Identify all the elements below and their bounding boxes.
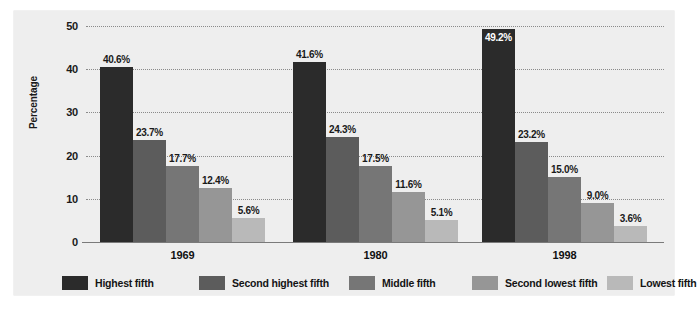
bar-value-label: 9.0% <box>587 190 609 201</box>
bar-value-label: 17.7% <box>169 153 196 164</box>
bar: 40.6% <box>100 67 133 242</box>
bar: 5.1% <box>425 220 458 242</box>
legend-item[interactable]: Second highest fifth <box>199 275 329 291</box>
y-axis-tick-label: 20 <box>66 150 78 162</box>
y-axis-tick-label: 30 <box>66 106 78 118</box>
bar: 17.7% <box>166 166 199 242</box>
bar-value-label: 41.6% <box>296 49 323 60</box>
bar: 24.3% <box>326 137 359 242</box>
y-axis-tick-label: 40 <box>66 63 78 75</box>
bar: 9.0% <box>581 203 614 242</box>
bar: 41.6% <box>293 62 326 242</box>
bar-value-label: 23.7% <box>136 127 163 138</box>
legend-swatch <box>199 276 225 290</box>
bar-value-label: 49.2% <box>485 32 512 43</box>
plot-area: 01020304050 40.6%23.7%17.7%12.4%5.6%41.6… <box>86 26 664 242</box>
bar-value-label: 5.1% <box>431 207 453 218</box>
legend-label: Lowest fifth <box>640 277 697 289</box>
bar: 17.5% <box>359 166 392 242</box>
chart-panel: Percentage 01020304050 40.6%23.7%17.7%12… <box>14 11 674 295</box>
gridline <box>86 26 664 27</box>
bar: 5.6% <box>232 218 265 242</box>
legend-label: Second highest fifth <box>232 277 329 289</box>
legend-label: Middle fifth <box>382 277 436 289</box>
bar: 15.0% <box>548 177 581 242</box>
bar: 23.7% <box>133 140 166 242</box>
gridline <box>86 112 664 113</box>
bar-value-label: 11.6% <box>395 179 421 190</box>
x-axis-group-label: 1980 <box>363 249 387 261</box>
y-axis-tick-label: 0 <box>72 236 78 248</box>
bar: 3.6% <box>614 226 647 242</box>
bar-value-label: 3.6% <box>620 213 642 224</box>
bar: 23.2% <box>515 142 548 242</box>
legend-swatch <box>349 276 375 290</box>
bar: 49.2% <box>482 29 515 242</box>
legend-item[interactable]: Lowest fifth <box>607 275 697 291</box>
x-axis-group-label: 1969 <box>170 249 194 261</box>
legend-item[interactable]: Highest fifth <box>62 275 154 291</box>
bar: 11.6% <box>392 192 425 242</box>
legend-label: Second lowest fifth <box>505 277 597 289</box>
y-axis-tick-label: 10 <box>66 193 78 205</box>
bar: 12.4% <box>199 188 232 242</box>
bar-value-label: 15.0% <box>551 164 578 175</box>
legend-item[interactable]: Second lowest fifth <box>472 275 597 291</box>
bar-value-label: 12.4% <box>202 175 229 186</box>
bar-value-label: 23.2% <box>518 129 545 140</box>
legend-label: Highest fifth <box>95 277 154 289</box>
y-axis-tick-label: 50 <box>66 20 78 32</box>
chart-legend: Highest fifthSecond highest fifthMiddle … <box>62 275 662 291</box>
gridline <box>86 69 664 70</box>
legend-swatch <box>472 276 498 290</box>
legend-swatch <box>607 276 633 290</box>
bar-value-label: 40.6% <box>103 54 130 65</box>
x-axis-group-label: 1998 <box>552 249 576 261</box>
legend-swatch <box>62 276 88 290</box>
legend-item[interactable]: Middle fifth <box>349 275 436 291</box>
x-axis-line <box>82 242 664 243</box>
bar-value-label: 17.5% <box>362 153 389 164</box>
bar-value-label: 5.6% <box>238 205 260 216</box>
bar-value-label: 24.3% <box>329 124 356 135</box>
y-axis-title: Percentage <box>28 76 39 129</box>
